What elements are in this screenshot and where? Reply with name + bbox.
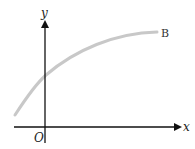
graph-diagram: y x O B [0,0,195,149]
origin-label: O [34,131,44,145]
x-axis-label: x [183,120,190,134]
curve-b-label: B [161,27,169,40]
curve-b [15,32,157,115]
y-axis-label: y [40,6,48,20]
